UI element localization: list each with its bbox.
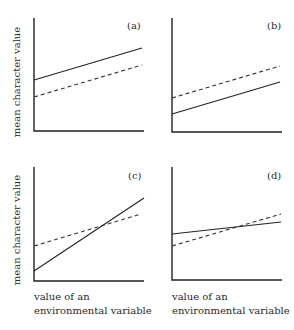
x-axis-label-left-line1: value of an (33, 291, 90, 302)
axes-c (34, 167, 144, 281)
solid-line-b (172, 82, 280, 114)
panel-label-b: (b) (267, 20, 281, 31)
dashed-line-d (172, 214, 281, 246)
axes-b (172, 18, 282, 132)
figure: (a) (b) (c) (d) mean character value mea… (0, 0, 294, 330)
panel-a: (a) (34, 18, 144, 131)
panel-d: (d) (172, 167, 282, 280)
dashed-line-b (172, 66, 280, 98)
x-axis-label-right-line1: value of an (171, 291, 228, 302)
x-axis-label-left-line2: environmental variable (34, 305, 152, 316)
panel-label-d: (d) (267, 170, 281, 181)
dashed-line-a (34, 65, 142, 97)
panel-label-a: (a) (127, 20, 141, 31)
panel-c: (c) (34, 167, 144, 281)
y-axis-label-top: mean character value (11, 27, 22, 137)
dashed-line-c (34, 214, 141, 246)
panel-label-c: (c) (128, 170, 142, 181)
solid-line-d (172, 222, 281, 234)
panel-b: (b) (172, 18, 282, 132)
axes-a (34, 18, 144, 131)
solid-line-a (34, 48, 142, 80)
x-axis-label-right-line2: environmental variable (172, 305, 290, 316)
solid-line-c (34, 198, 144, 271)
y-axis-label-bottom: mean character value (11, 175, 22, 285)
